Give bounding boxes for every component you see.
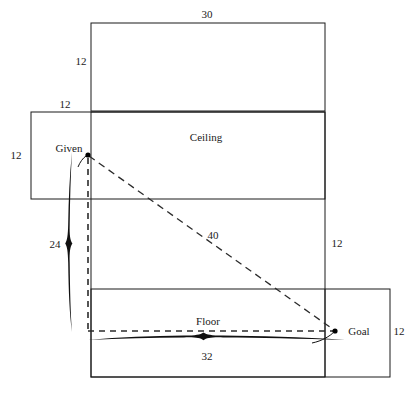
dimension-diagonal-40: 40: [208, 229, 220, 241]
given-point-dot: [85, 152, 90, 157]
dimension-top-height: 12: [76, 55, 87, 67]
panel-top-wall: [91, 23, 325, 111]
label-floor: Floor: [196, 315, 220, 327]
brace-horizontal-32: [88, 332, 345, 340]
dimension-left-brace-24: 24: [50, 238, 62, 250]
dimension-upper-left-offset: 12: [60, 98, 71, 110]
diagram-canvas: 30 12 12 12 24 12 12 32 40 Ceiling Floor…: [0, 0, 417, 393]
dashed-diagonal-path: [89, 156, 334, 330]
goal-pointer-curve: [312, 332, 334, 343]
dimension-right-side-height: 12: [332, 237, 343, 249]
panel-ceiling-with-left-flap: [31, 112, 325, 199]
label-ceiling: Ceiling: [190, 131, 223, 143]
brace-vertical-24: [65, 152, 72, 332]
unfolded-box-diagram: 30 12 12 12 24 12 12 32 40 Ceiling Floor…: [0, 0, 417, 393]
label-given: Given: [56, 142, 83, 154]
dimension-left-side-height: 12: [11, 149, 22, 161]
label-goal: Goal: [348, 325, 369, 337]
dimension-bottom-right-height: 12: [394, 325, 405, 337]
given-pointer-curve: [78, 156, 86, 167]
panel-floor-with-right-flap: [91, 289, 390, 377]
dimension-top-width: 30: [202, 8, 214, 20]
dimension-bottom-brace-32: 32: [202, 350, 213, 362]
